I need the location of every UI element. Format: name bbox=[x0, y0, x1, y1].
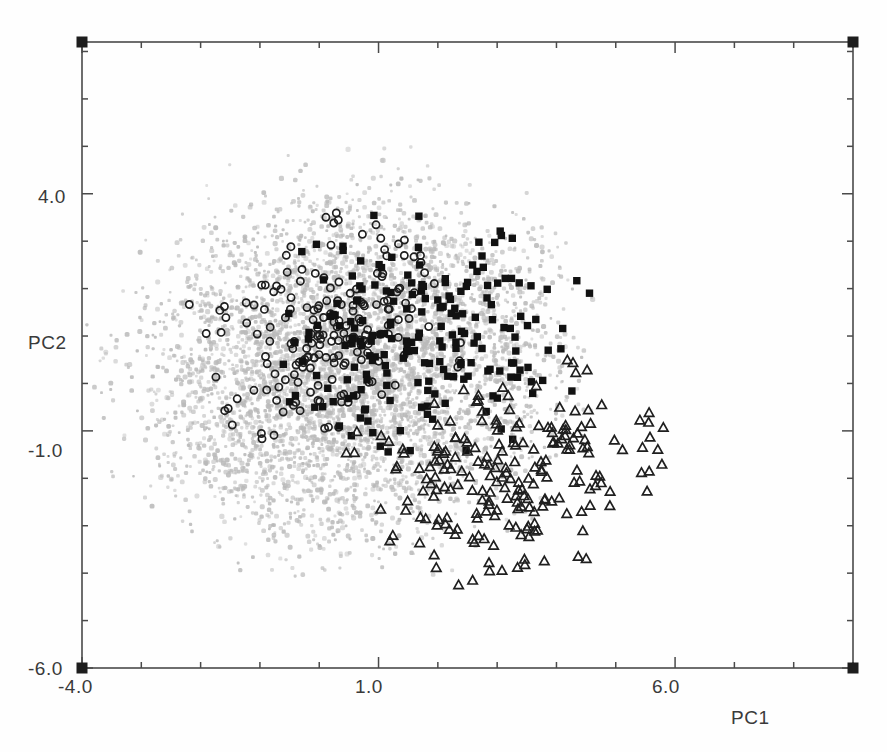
y-tick-label-minus1: -1.0 bbox=[28, 440, 63, 462]
axis-frame bbox=[77, 37, 859, 674]
x-tick-label-1: 1.0 bbox=[355, 676, 383, 698]
x-axis-label: PC1 bbox=[731, 707, 769, 729]
plot-canvas bbox=[0, 0, 887, 752]
y-axis-label: PC2 bbox=[28, 332, 66, 354]
y-tick-label-4: 4.0 bbox=[38, 186, 66, 208]
x-tick-label-6: 6.0 bbox=[652, 676, 680, 698]
x-tick-label-minus4: -4.0 bbox=[58, 676, 93, 698]
scatter-plot-figure: PC2 PC1 4.0 -1.0 -6.0 -4.0 1.0 6.0 bbox=[0, 0, 887, 752]
